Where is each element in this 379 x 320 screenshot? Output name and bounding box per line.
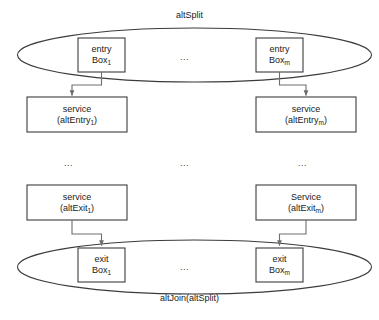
altJoin-title-text: altJoin(altSplit) <box>160 293 219 303</box>
service-altexit-m-shape[interactable] <box>256 185 356 220</box>
connector-service-exit1-to-exitbox1 <box>72 220 102 246</box>
ellipsis-middle-left: ... <box>64 158 73 168</box>
diagram-vector-layer <box>0 0 379 320</box>
connector-service-exitm-to-exitboxm <box>280 220 307 246</box>
entry-box-m-shape[interactable] <box>256 38 303 72</box>
ellipsis-middle-right: ... <box>298 158 307 168</box>
altSplit-title-text: altSplit <box>176 10 203 20</box>
ellipsis-entry-row: ... <box>180 52 189 62</box>
diagram-canvas: altSplit altJoin(altSplit) entry Box1 en… <box>0 0 379 320</box>
altJoin-ellipse <box>18 240 372 294</box>
ellipsis-exit-row: ... <box>180 262 189 272</box>
entry-box-1-shape[interactable] <box>78 38 125 72</box>
service-altentry-m-shape[interactable] <box>256 97 356 132</box>
altJoin-title: altJoin(altSplit) <box>0 293 379 304</box>
ellipsis-middle-center: ... <box>180 158 189 168</box>
altSplit-ellipse <box>18 28 372 82</box>
connector-entrym-to-servicem <box>280 72 307 96</box>
exit-box-1-shape[interactable] <box>78 248 125 282</box>
altSplit-title: altSplit <box>0 10 379 21</box>
service-altexit-1-shape[interactable] <box>27 185 127 220</box>
service-altentry-1-shape[interactable] <box>27 97 127 132</box>
exit-box-m-shape[interactable] <box>256 248 303 282</box>
